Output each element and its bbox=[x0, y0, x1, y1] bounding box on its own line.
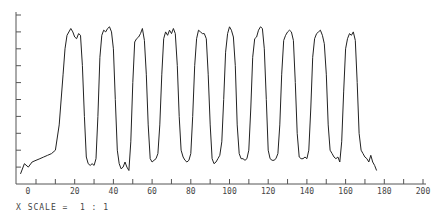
svg-text:100: 100 bbox=[222, 187, 237, 196]
line-chart: 020406080100120140160180200 bbox=[0, 0, 446, 216]
x-axis-tick-labels: 020406080100120140160180200 bbox=[26, 187, 431, 196]
x-axis-ticks bbox=[36, 179, 423, 184]
data-trace bbox=[21, 27, 377, 174]
svg-text:140: 140 bbox=[300, 187, 315, 196]
y-axis-ticks bbox=[16, 15, 21, 167]
svg-text:40: 40 bbox=[109, 187, 119, 196]
svg-text:0: 0 bbox=[26, 187, 31, 196]
x-scale-annotation: X SCALE = 1 : 1 bbox=[16, 203, 109, 212]
svg-text:160: 160 bbox=[338, 187, 353, 196]
svg-text:80: 80 bbox=[186, 187, 196, 196]
svg-text:180: 180 bbox=[377, 187, 392, 196]
svg-text:20: 20 bbox=[70, 187, 80, 196]
svg-text:120: 120 bbox=[261, 187, 276, 196]
svg-text:60: 60 bbox=[147, 187, 157, 196]
svg-text:200: 200 bbox=[416, 187, 431, 196]
